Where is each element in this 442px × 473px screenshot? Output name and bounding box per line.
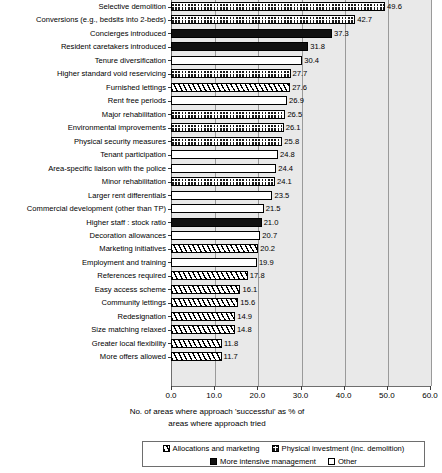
bar-value-label: 21.0 <box>264 218 279 227</box>
bar-value-label: 42.7 <box>357 15 372 24</box>
bar-alloc <box>171 298 238 307</box>
category-label: Physical security measures <box>0 137 166 146</box>
category-label: References required <box>0 271 166 280</box>
bar-alloc <box>171 271 248 280</box>
legend-swatch-phys-icon <box>272 445 279 452</box>
x-axis-tick-label: 40.0 <box>324 391 364 401</box>
category-label: Higher standard void reservicing <box>0 69 166 78</box>
bar-other <box>171 164 276 173</box>
bar-row: More offers allowed11.7 <box>0 352 434 365</box>
category-label: Tenure diversification <box>0 56 166 65</box>
bar-value-label: 24.4 <box>278 164 293 173</box>
bar-value-label: 26.5 <box>287 110 302 119</box>
bar-value-label: 15.6 <box>240 298 255 307</box>
category-label: Conversions (e.g., bedsits into 2-beds) <box>0 15 166 24</box>
bar-phys <box>171 15 355 24</box>
bar-row: Redesignation14.9 <box>0 312 434 325</box>
bar-row: Marketing initiatives20.2 <box>0 244 434 257</box>
bar-value-label: 17.8 <box>250 271 265 280</box>
bar-mim <box>171 42 308 51</box>
bar-value-label: 16.1 <box>242 285 257 294</box>
bar-value-label: 25.8 <box>284 137 299 146</box>
bar-alloc <box>171 244 258 253</box>
bar-value-label: 19.9 <box>259 258 274 267</box>
legend-label: Other <box>338 457 357 466</box>
chart-legend: Allocations and marketingPhysical invest… <box>142 441 425 467</box>
bar-other <box>171 191 272 200</box>
x-axis-tick-label: 50.0 <box>367 391 407 401</box>
legend-row: Allocations and marketingPhysical invest… <box>143 442 424 455</box>
x-axis-tick <box>387 386 388 390</box>
bar-value-label: 37.3 <box>334 29 349 38</box>
bar-other <box>171 258 257 267</box>
bar-value-label: 21.5 <box>266 204 281 213</box>
bar-value-label: 14.9 <box>237 312 252 321</box>
category-label: More offers allowed <box>0 352 166 361</box>
category-label: Size matching relaxed <box>0 325 166 334</box>
bar-row: Major rehabilitation26.5 <box>0 110 434 123</box>
x-axis-tick-label: 20.0 <box>237 391 277 401</box>
category-label: Concierges introduced <box>0 29 166 38</box>
category-label: Community lettings <box>0 298 166 307</box>
bar-row: Physical security measures25.8 <box>0 137 434 150</box>
bar-value-label: 49.6 <box>387 2 402 11</box>
bar-row: Community lettings15.6 <box>0 298 434 311</box>
bar-row: Rent free periods26.9 <box>0 96 434 109</box>
bar-alloc <box>171 352 222 361</box>
bar-row: Easy access scheme16.1 <box>0 285 434 298</box>
x-axis-tick <box>171 386 172 390</box>
x-axis-tick <box>214 386 215 390</box>
bar-row: Environmental improvements26.1 <box>0 123 434 136</box>
legend-item-alloc[interactable]: Allocations and marketing <box>163 444 260 453</box>
bar-mim <box>171 218 262 227</box>
bar-value-label: 24.8 <box>280 150 295 159</box>
category-label: Area-specific liaison with the police <box>0 164 166 173</box>
bar-mim <box>171 29 332 38</box>
bar-value-label: 27.7 <box>293 69 308 78</box>
category-label: Decoration allowances <box>0 231 166 240</box>
bar-row: Tenant participation24.8 <box>0 150 434 163</box>
bar-row: Area-specific liaison with the police24.… <box>0 164 434 177</box>
category-label: Minor rehabilitation <box>0 177 166 186</box>
x-axis-title-line: areas where approach tried <box>0 418 434 430</box>
legend-item-other[interactable]: Other <box>328 457 357 466</box>
bar-phys <box>171 177 275 186</box>
legend-item-mim[interactable]: More intensive management <box>210 457 316 466</box>
bar-value-label: 20.2 <box>260 244 275 253</box>
category-label: Rent free periods <box>0 96 166 105</box>
x-axis-tick-label: 0.0 <box>151 391 191 401</box>
bar-alloc <box>171 325 235 334</box>
category-label: Greater local flexibility <box>0 339 166 348</box>
legend-swatch-other-icon <box>328 458 335 465</box>
bar-row: Size matching relaxed14.8 <box>0 325 434 338</box>
bar-row: Conversions (e.g., bedsits into 2-beds)4… <box>0 15 434 28</box>
bar-alloc <box>171 285 240 294</box>
bar-value-label: 23.5 <box>274 191 289 200</box>
category-label: Tenant participation <box>0 150 166 159</box>
bar-row: Larger rent differentials23.5 <box>0 191 434 204</box>
x-axis-title-line: No. of areas where approach 'successful'… <box>0 406 434 418</box>
bar-other <box>171 96 287 105</box>
legend-label: More intensive management <box>220 457 316 466</box>
bar-row: Minor rehabilitation24.1 <box>0 177 434 190</box>
bar-value-label: 26.1 <box>286 123 301 132</box>
bar-phys <box>171 123 284 132</box>
x-axis-tick-label: 10.0 <box>194 391 234 401</box>
category-label: Marketing initiatives <box>0 244 166 253</box>
legend-swatch-mim-icon <box>210 458 217 465</box>
bar-row: References required17.8 <box>0 271 434 284</box>
bar-value-label: 30.4 <box>304 56 319 65</box>
category-label: Environmental improvements <box>0 123 166 132</box>
bar-phys <box>171 69 291 78</box>
bar-value-label: 20.7 <box>262 231 277 240</box>
legend-row: More intensive managementOther <box>143 455 424 468</box>
x-axis-tick <box>257 386 258 390</box>
legend-item-phys[interactable]: Physical investment (inc. demolition) <box>272 444 405 453</box>
bar-value-label: 11.7 <box>224 352 238 361</box>
bar-row: Concierges introduced37.3 <box>0 29 434 42</box>
x-axis-tick <box>430 386 431 390</box>
x-axis-tick <box>344 386 345 390</box>
bar-row: Employment and training19.9 <box>0 258 434 271</box>
bar-alloc <box>171 339 222 348</box>
